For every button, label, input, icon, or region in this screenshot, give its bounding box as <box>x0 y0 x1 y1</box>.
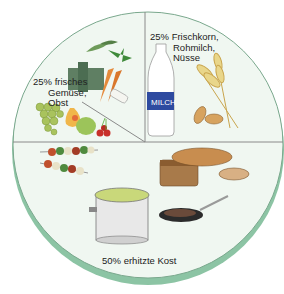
grain-label: 25% Frischkorn, Rohmilch, Nüsse <box>150 32 219 64</box>
plate-diagram <box>0 0 284 294</box>
cooked-label: 50% erhitzte Kost <box>102 256 176 267</box>
milk-bottle-label: MILCH <box>151 98 176 109</box>
grain-label-line1: 25% Frischkorn, <box>150 31 219 42</box>
grain-label-line2: Rohmilch, <box>150 42 215 53</box>
vegetables-label-line1: 25% frisches <box>33 76 87 87</box>
grain-label-line3: Nüsse <box>150 52 200 63</box>
vegetables-label: 25% frisches Gemüse, Obst <box>33 77 87 109</box>
vegetables-label-line3: Obst <box>33 97 68 108</box>
vegetables-label-line2: Gemüse, <box>33 87 87 98</box>
